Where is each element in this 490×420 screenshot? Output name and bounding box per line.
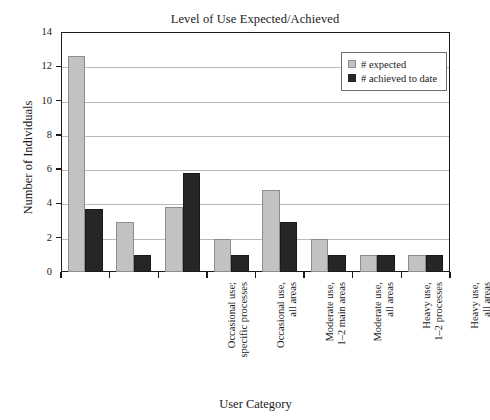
y-tick-label: 8: [18, 130, 52, 141]
x-category-label: Heavy use, 1–2 processes: [421, 282, 444, 412]
bar-achieved: [134, 255, 152, 272]
y-axis-title: Number of Individuals: [21, 58, 36, 258]
x-tick-mark: [109, 272, 110, 278]
y-tick-label: 4: [18, 198, 52, 209]
legend-label: # achieved to date: [361, 73, 437, 84]
y-tick-label: 12: [18, 61, 52, 72]
bar-achieved: [231, 255, 249, 272]
chart-legend: # expected# achieved to date: [341, 52, 447, 91]
bar-expected: [360, 255, 378, 272]
x-category-label: Occasional use; specific processes: [226, 282, 249, 412]
legend-swatch-expected: [348, 60, 356, 68]
y-tick-label: 0: [18, 267, 52, 278]
legend-item: # achieved to date: [348, 71, 437, 85]
x-tick-mark: [303, 272, 304, 278]
bar-expected: [408, 255, 426, 272]
bar-expected: [214, 239, 232, 272]
x-category-label: Heavy use, all areas: [469, 282, 490, 412]
legend-label: # expected: [361, 59, 406, 70]
x-category-label: Moderate use, 1–2 main areas: [324, 282, 347, 412]
bar-expected: [68, 56, 86, 272]
x-tick-mark: [449, 272, 450, 278]
x-category-label: Occasional use, all areas: [275, 282, 298, 412]
bar-expected: [311, 239, 329, 272]
bar-achieved: [85, 209, 103, 272]
legend-swatch-achieved: [348, 74, 356, 82]
y-tick-label: 14: [18, 27, 52, 38]
y-tick-label: 6: [18, 164, 52, 175]
y-tick-label: 10: [18, 96, 52, 107]
bar-achieved: [183, 173, 201, 272]
bar-expected: [165, 207, 183, 272]
bar-chart-figure: Level of Use Expected/Achieved Number of…: [0, 0, 490, 420]
y-tick-label: 2: [18, 233, 52, 244]
x-tick-mark: [401, 272, 402, 278]
legend-item: # expected: [348, 57, 437, 71]
bar-expected: [116, 222, 134, 272]
chart-title: Level of Use Expected/Achieved: [60, 12, 450, 27]
bar-expected: [262, 190, 280, 272]
x-category-label: Moderate use, all areas: [372, 282, 395, 412]
bar-achieved: [426, 255, 444, 272]
x-tick-mark: [255, 272, 256, 278]
bar-achieved: [280, 222, 298, 272]
bar-achieved: [377, 255, 395, 272]
x-axis-title: User Category: [61, 397, 450, 412]
x-tick-mark: [352, 272, 353, 278]
bar-achieved: [328, 255, 346, 272]
x-tick-mark: [60, 272, 61, 278]
x-tick-mark: [158, 272, 159, 278]
x-tick-mark: [206, 272, 207, 278]
